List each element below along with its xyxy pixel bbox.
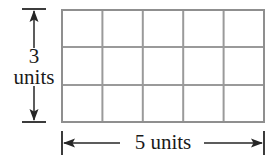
height-dimension-unit: units xyxy=(0,67,68,88)
height-dimension-label: 3 units xyxy=(0,46,68,89)
width-dimension-label: 5 units xyxy=(118,132,208,153)
height-dimension-value: 3 xyxy=(0,46,68,67)
grid-background xyxy=(62,10,264,122)
width-dimension-value: 5 xyxy=(135,130,146,154)
area-model-diagram: 3 units 5 units xyxy=(0,0,279,162)
grid-group xyxy=(62,10,264,122)
width-dimension-unit: units xyxy=(150,130,191,154)
